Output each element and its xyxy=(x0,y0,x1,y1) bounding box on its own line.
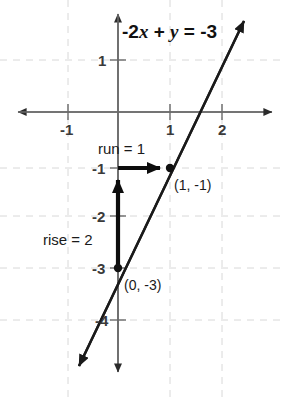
run-annotation-label: run = 1 xyxy=(98,141,145,156)
equation-var-x: x xyxy=(139,21,149,42)
coordinate-plane-svg xyxy=(0,0,281,399)
point-0-minus3 xyxy=(114,264,122,272)
equation-rhs: -3 xyxy=(200,21,217,42)
plotted-points xyxy=(114,164,174,272)
equation-coefficient: -2 xyxy=(122,21,139,42)
equation-label: -2x + y = -3 xyxy=(122,22,217,41)
x-tick-label-2: 2 xyxy=(218,122,226,137)
x-axis xyxy=(18,104,272,120)
point-label-1-minus1: (1, -1) xyxy=(174,178,211,192)
grid-lines xyxy=(0,0,281,399)
y-tick-label-minus4: -4 xyxy=(95,313,108,328)
x-tick-label-minus1: -1 xyxy=(60,122,73,137)
graph-figure: -2x + y = -3 1 -1 -2 -3 -4 -1 1 2 run = … xyxy=(0,0,281,399)
y-tick-label-minus1: -1 xyxy=(92,161,105,176)
x-tick-label-1: 1 xyxy=(166,122,174,137)
point-label-0-minus3: (0, -3) xyxy=(124,278,161,292)
y-tick-label-minus2: -2 xyxy=(92,209,105,224)
equation-equals: = xyxy=(179,21,201,42)
point-1-minus1 xyxy=(166,164,174,172)
equation-plus: + xyxy=(148,21,170,42)
y-tick-label-minus3: -3 xyxy=(92,261,105,276)
y-tick-label-1: 1 xyxy=(98,53,106,68)
equation-var-y: y xyxy=(170,21,178,42)
rise-annotation-label: rise = 2 xyxy=(43,232,93,247)
